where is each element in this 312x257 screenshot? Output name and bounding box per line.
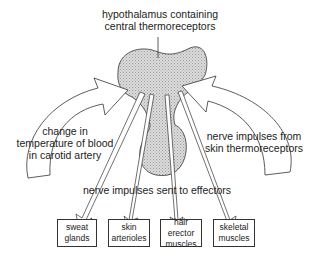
right-input-line1: nerve impulses from [198, 130, 310, 142]
effector-line2: muscles [218, 233, 249, 244]
effector-line1: sweat [66, 222, 88, 233]
hypothalamus-label: hypothalamus containing central thermore… [95, 8, 225, 32]
right-input-arrow [182, 76, 291, 175]
left-input-line3: in carotid artery [10, 149, 120, 161]
effector-line1: skeletal [220, 222, 249, 233]
effector-line1: skin [121, 222, 136, 233]
effector-line2: muscles [165, 239, 196, 250]
right-input-label: nerve impulses from skin thermoreceptors [198, 130, 310, 154]
hypothalamus-label-line1: hypothalamus containing [95, 8, 225, 20]
output-label: nerve impulses sent to effectors [82, 184, 232, 196]
effector-line2: glands [64, 233, 89, 244]
left-input-line2: temperature of blood [10, 137, 120, 149]
hypothalamus-label-line2: central thermoreceptors [95, 20, 225, 32]
effector-box-hair-erector-muscles: hair erector muscles [160, 219, 202, 247]
effector-line1: hair erector [161, 217, 201, 239]
right-input-line2: skin thermoreceptors [198, 142, 310, 154]
effector-box-sweat-glands: sweat glands [57, 219, 97, 247]
effector-box-skin-arterioles: skin arterioles [108, 219, 150, 247]
left-input-label: change in temperature of blood in caroti… [10, 125, 120, 161]
left-input-line1: change in [10, 125, 120, 137]
effector-line2: arterioles [112, 233, 147, 244]
effector-box-skeletal-muscles: skeletal muscles [213, 219, 255, 247]
